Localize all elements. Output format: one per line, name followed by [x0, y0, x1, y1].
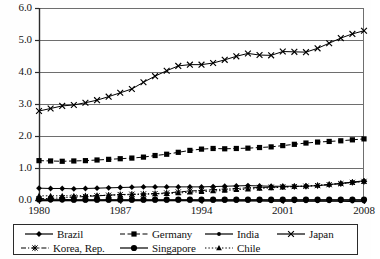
marker-square [48, 158, 53, 163]
y-axis-tick-label: 2.0 [0, 130, 32, 141]
legend-item-japan[interactable]: Japan [276, 227, 334, 241]
y-axis-tick-label: 6.0 [0, 2, 32, 13]
marker-asterisk [32, 245, 38, 251]
y-axis-tick-label: 1.0 [0, 162, 32, 173]
marker-square [60, 159, 65, 164]
marker-square [94, 157, 99, 162]
chart-legend: BrazilGermanyIndiaJapan Korea, Rep.Singa… [13, 224, 358, 255]
marker-square [338, 138, 343, 143]
marker-square [36, 158, 41, 163]
legend-label: India [237, 228, 259, 240]
y-axis-tick-label: 0.0 [0, 194, 32, 205]
marker-square [164, 152, 169, 157]
marker-square [199, 147, 204, 152]
legend-label: Japan [309, 228, 334, 240]
marker-square [361, 136, 366, 141]
marker-circle [131, 245, 137, 251]
marker-circle [349, 197, 355, 203]
x-axis-tick-label: 1980 [17, 205, 61, 216]
marker-square [327, 139, 332, 144]
legend-item-brazil[interactable]: Brazil [24, 227, 83, 241]
legend-marker-diamond-icon [24, 228, 54, 240]
marker-circle [280, 197, 286, 203]
marker-circle [198, 197, 204, 203]
marker-square [245, 146, 250, 151]
marker-circle [217, 232, 221, 236]
marker-square [292, 142, 297, 147]
marker-square [222, 146, 227, 151]
y-axis-tick-label: 4.0 [0, 66, 32, 77]
marker-circle [140, 197, 146, 203]
marker-triangle [216, 245, 222, 250]
legend-marker-circle-large-icon [119, 242, 149, 254]
x-axis-tick-label: 1987 [98, 205, 142, 216]
marker-square [269, 144, 274, 149]
legend-marker-asterisk-icon [20, 242, 50, 254]
marker-circle [256, 197, 262, 203]
marker-square [106, 157, 111, 162]
marker-square [234, 146, 239, 151]
marker-circle [222, 197, 228, 203]
y-axis-tick-label: 3.0 [0, 98, 32, 109]
marker-square [83, 158, 88, 163]
marker-circle [268, 197, 274, 203]
legend-row-2: Korea, Rep.SingaporeChile [14, 241, 357, 255]
x-axis-tick-label: 1994 [180, 205, 224, 216]
legend-marker-square-icon [119, 228, 149, 240]
marker-circle [326, 197, 332, 203]
legend-label: Singapore [152, 242, 196, 254]
marker-circle [117, 197, 123, 203]
marker-circle [303, 197, 309, 203]
marker-square [131, 231, 136, 236]
marker-circle [291, 197, 297, 203]
marker-circle [361, 197, 367, 203]
legend-marker-circle-small-icon [204, 228, 234, 240]
marker-circle [338, 197, 344, 203]
marker-circle [210, 197, 216, 203]
marker-circle [129, 197, 135, 203]
legend-item-india[interactable]: India [204, 227, 259, 241]
legend-marker-triangle-icon [204, 242, 234, 254]
legend-label: Germany [152, 228, 192, 240]
legend-row-1: BrazilGermanyIndiaJapan [14, 227, 357, 241]
legend-item-korea-rep[interactable]: Korea, Rep. [20, 241, 105, 255]
marker-square [350, 137, 355, 142]
legend-label: Korea, Rep. [53, 242, 105, 254]
legend-item-singapore[interactable]: Singapore [119, 241, 196, 255]
x-axis-tick-label: 2008 [342, 205, 380, 216]
marker-circle [187, 197, 193, 203]
marker-circle [152, 197, 158, 203]
marker-circle [314, 197, 320, 203]
legend-label: Brazil [57, 228, 83, 240]
marker-square [280, 143, 285, 148]
marker-square [118, 156, 123, 161]
marker-diamond [36, 231, 42, 237]
marker-square [257, 145, 262, 150]
marker-circle [175, 197, 181, 203]
x-axis-tick-label: 2001 [261, 205, 305, 216]
marker-square [176, 150, 181, 155]
legend-item-germany[interactable]: Germany [119, 227, 192, 241]
marker-circle [245, 197, 251, 203]
y-axis-tick-label: 5.0 [0, 34, 32, 45]
marker-square [187, 148, 192, 153]
legend-item-chile[interactable]: Chile [204, 241, 260, 255]
marker-circle [106, 197, 112, 203]
marker-square [129, 155, 134, 160]
marker-square [152, 153, 157, 158]
marker-square [141, 155, 146, 160]
marker-square [211, 146, 216, 151]
marker-square [303, 140, 308, 145]
legend-marker-x-icon [276, 228, 306, 240]
marker-square [315, 139, 320, 144]
chart-canvas [0, 0, 371, 218]
marker-circle [164, 197, 170, 203]
marker-circle [233, 197, 239, 203]
legend-label: Chile [237, 242, 260, 254]
plot-area: 0.01.02.03.04.05.06.0 198019871994200120… [0, 0, 371, 218]
marker-square [71, 158, 76, 163]
